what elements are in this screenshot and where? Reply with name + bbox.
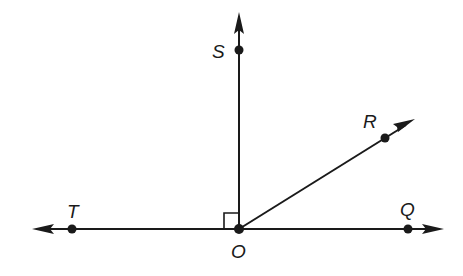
- point-O: [234, 224, 244, 234]
- geometry-diagram: S R T Q O: [0, 0, 463, 276]
- label-Q: Q: [400, 199, 415, 220]
- label-S: S: [212, 41, 225, 62]
- label-O: O: [231, 241, 246, 262]
- point-Q: [404, 225, 413, 234]
- ray-OR: [239, 125, 406, 229]
- label-R: R: [363, 111, 377, 132]
- point-S: [235, 46, 244, 55]
- point-R: [381, 134, 390, 143]
- label-T: T: [67, 201, 80, 222]
- point-T: [68, 225, 77, 234]
